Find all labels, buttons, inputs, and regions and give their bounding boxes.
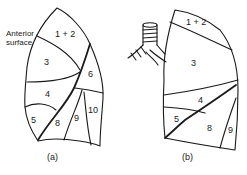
segment-a-10: 10 [88,106,98,115]
segment-a-6: 6 [88,70,93,79]
trachea-icon [128,23,166,65]
annotation-line-2: surface [6,38,32,47]
caption-b: (b) [182,153,193,162]
segment-a-5: 5 [31,116,36,125]
segment-b-5: 5 [174,115,179,124]
segment-b-4: 4 [198,96,203,105]
segment-b-9: 9 [228,126,233,135]
annotation-line-1: Anterior [6,29,34,38]
segment-a-9: 9 [74,114,79,123]
anterior-surface-label: Anterior surface [6,29,34,47]
lung-diagram-svg [0,0,247,175]
segment-a-8: 8 [55,119,60,128]
segment-a-3: 3 [44,58,49,67]
segment-b-1-2: 1 + 2 [186,18,206,27]
segment-b-3: 3 [191,59,196,68]
segment-a-1-2: 1 + 2 [55,30,75,39]
segment-a-4: 4 [45,90,50,99]
caption-a: (a) [47,153,58,162]
segment-b-8: 8 [207,124,212,133]
lung-b-drawing [128,10,238,150]
